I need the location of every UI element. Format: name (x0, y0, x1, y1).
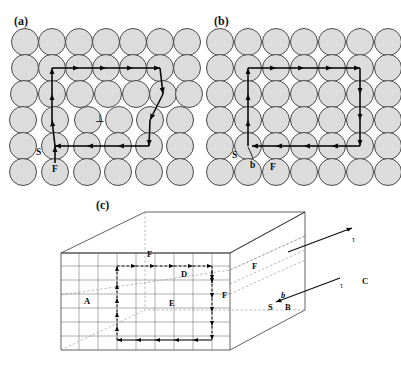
panel-c-label-f-right: F (252, 261, 257, 271)
panel-a-lattice-drawing: S F ⊥ (0, 0, 200, 190)
panel-c-label: (c) (96, 198, 109, 213)
panel-a-start-label: S (36, 147, 41, 157)
atom-grid-b (207, 29, 401, 186)
panel-c-start-label: S (268, 302, 273, 312)
panel-c-label-a: A (84, 296, 91, 306)
panel-b-burgers-label: b (250, 160, 255, 170)
panel-c-label-c: C (362, 276, 368, 286)
block-outline (61, 212, 305, 350)
panel-a-label: (a) (14, 14, 28, 29)
slip-plane (61, 236, 305, 295)
panel-a-finish-label: F (52, 164, 58, 174)
panel-c-label-f-top: F (147, 249, 152, 259)
panel-a-dislocation-symbol: ⊥ (95, 112, 105, 124)
panel-c-tau-label-lower: τ (340, 281, 343, 290)
panel-b-start-label: S (232, 150, 237, 160)
atom-grid-a (10, 29, 203, 186)
panel-c: (c) (0, 190, 401, 365)
panel-a: (a) (0, 0, 200, 190)
burgers-circuit-c (117, 266, 212, 340)
panel-c-label-d: D (181, 269, 187, 279)
figure-root: (a) (0, 0, 401, 365)
panel-b-lattice-drawing: S b F (200, 0, 401, 190)
tau-arrows (276, 228, 352, 302)
panel-c-label-b: B (285, 302, 291, 312)
panel-c-burgers-label: b (281, 290, 285, 300)
panel-c-label-f-mid: F (222, 290, 227, 300)
panel-b-label: (b) (214, 14, 229, 29)
panel-b: (b) (200, 0, 401, 190)
panel-b-finish-label: F (270, 162, 276, 172)
panel-c-tau-label-upper: τ (352, 235, 355, 244)
panel-c-label-e: E (169, 298, 175, 308)
panel-c-block-drawing: A B C D E F F F S b τ τ (0, 190, 401, 365)
